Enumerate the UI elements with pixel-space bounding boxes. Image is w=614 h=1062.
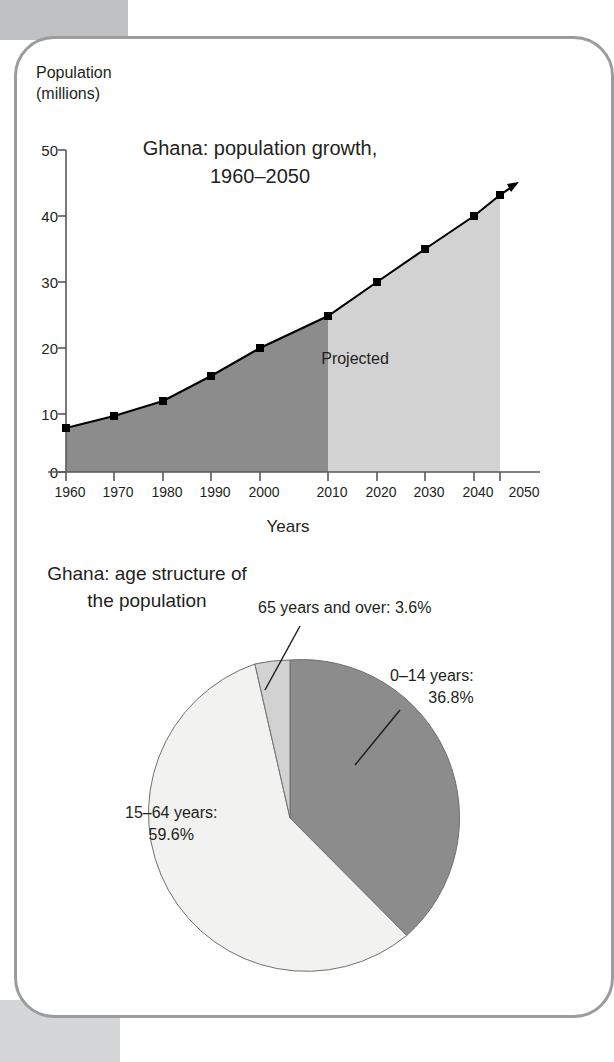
pie-label-15-64: 15–64 years: 59.6% [125, 802, 218, 846]
data-point-2010 [324, 312, 332, 320]
data-point-2050 [496, 191, 504, 199]
population-growth-chart: Population (millions) Ghana: population … [0, 62, 576, 562]
pie-label-0-14: 0–14 years: 36.8% [390, 665, 474, 709]
x-tick-2020: 2020 [365, 484, 396, 500]
line-chart-plot [0, 62, 576, 502]
x-tick-1980: 1980 [151, 484, 182, 500]
data-point-1990 [207, 372, 215, 380]
data-point-2020 [373, 278, 381, 286]
x-tick-1990: 1990 [199, 484, 230, 500]
data-point-2040 [470, 212, 478, 220]
x-tick-2000: 2000 [248, 484, 279, 500]
x-tick-marks [66, 472, 500, 481]
historic-area-fill [66, 316, 328, 472]
x-tick-2040: 2040 [462, 484, 493, 500]
x-tick-1970: 1970 [102, 484, 133, 500]
x-tick-2010: 2010 [316, 484, 347, 500]
x-axis-label: Years [0, 517, 576, 537]
decorative-block-bottom-right [120, 1016, 576, 1062]
data-point-1980 [159, 397, 167, 405]
y-tick-marks [58, 150, 66, 472]
x-tick-2050: 2050 [508, 484, 539, 500]
data-point-1970 [110, 412, 118, 420]
data-point-1960 [62, 424, 70, 432]
pie-label-65-plus: 65 years and over: 3.6% [258, 597, 431, 619]
data-point-2000 [256, 344, 264, 352]
projected-region-label: Projected [321, 350, 389, 368]
x-tick-1960: 1960 [54, 484, 85, 500]
x-tick-2030: 2030 [413, 484, 444, 500]
pie-plot [0, 560, 576, 1000]
projected-area-fill [328, 195, 500, 472]
data-point-2030 [421, 245, 429, 253]
age-structure-chart: Ghana: age structure of the population 6… [0, 560, 576, 1000]
decorative-block-top-left [0, 0, 128, 40]
